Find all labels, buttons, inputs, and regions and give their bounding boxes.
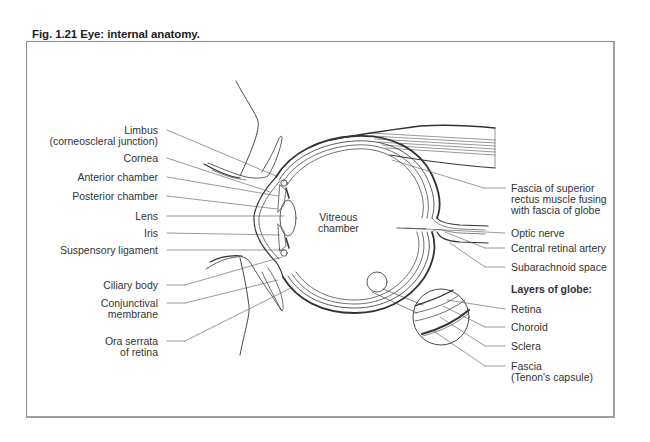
label-line: chamber <box>318 223 359 234</box>
label-subarachnoid-space: Subarachnoid space <box>511 262 607 273</box>
label-sclera: Sclera <box>511 341 541 352</box>
label-retina: Retina <box>511 304 541 315</box>
label-suspensory-ligament: Suspensory ligament <box>60 245 158 256</box>
label-ciliary-body: Ciliary body <box>103 280 158 291</box>
lower-eyelid-icon <box>206 256 283 355</box>
label-anterior-chamber: Anterior chamber <box>77 172 158 183</box>
label-conjunctival-membrane: Conjunctival membrane <box>101 298 158 320</box>
leader-lines-left <box>167 130 293 341</box>
label-central-retinal-artery: Central retinal artery <box>511 243 606 254</box>
label-fascia-superior-rectus: Fascia of superior rectus muscle fusing … <box>511 183 607 216</box>
label-line: (Tenon's capsule) <box>511 372 593 383</box>
label-fascia-tenons-capsule: Fascia (Tenon's capsule) <box>511 361 593 383</box>
layers-of-globe-heading: Layers of globe: <box>511 284 592 295</box>
label-vitreous-chamber: Vitreous chamber <box>318 212 359 234</box>
optic-nerve-icon <box>397 218 488 243</box>
label-optic-nerve: Optic nerve <box>511 228 565 239</box>
label-choroid: Choroid <box>511 322 548 333</box>
label-posterior-chamber: Posterior chamber <box>72 191 158 202</box>
upper-eyelid-icon <box>204 81 282 180</box>
label-line: of retina <box>105 347 158 358</box>
label-line: membrane <box>101 309 158 320</box>
label-lens: Lens <box>135 211 158 222</box>
label-iris: Iris <box>144 228 158 239</box>
label-limbus: Limbus (corneoscleral junction) <box>49 125 158 147</box>
superior-rectus-muscle-icon <box>330 125 495 168</box>
label-cornea: Cornea <box>124 153 158 164</box>
leader-lines-right <box>392 160 505 366</box>
label-ora-serrata: Ora serrata of retina <box>105 336 158 358</box>
label-line: (corneoscleral junction) <box>49 136 158 147</box>
label-line: with fascia of globe <box>511 205 607 216</box>
